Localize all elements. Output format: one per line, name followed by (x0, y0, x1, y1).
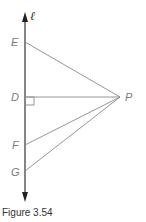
arrow-down-icon (22, 192, 28, 202)
point-g-label: G (11, 166, 20, 178)
point-d-label: D (11, 91, 19, 103)
arrow-up-icon (22, 12, 28, 22)
segment-pe (25, 42, 120, 97)
geometry-figure: ℓ E D F G P (0, 0, 146, 222)
segment-pf (25, 97, 120, 145)
right-angle-marker (25, 97, 34, 105)
point-p-label: P (125, 91, 133, 103)
point-f-label: F (12, 139, 20, 151)
point-e-label: E (11, 36, 19, 48)
segment-pg (25, 97, 120, 171)
figure-caption: Figure 3.54 (2, 207, 53, 218)
line-l-label: ℓ (30, 9, 35, 23)
